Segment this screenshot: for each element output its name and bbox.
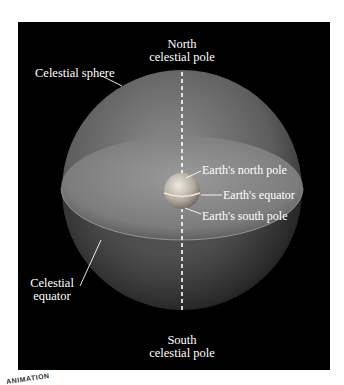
earth: [164, 173, 200, 209]
label-north-celestial-pole: North celestial pole: [147, 38, 217, 64]
label-south-celestial-pole: South celestial pole: [147, 334, 217, 360]
label-north-line2: celestial pole: [147, 51, 217, 64]
label-celestial-equator-line2: equator: [30, 290, 74, 303]
label-earth-north-pole: Earth's north pole: [202, 164, 287, 177]
label-celestial-equator: Celestial equator: [30, 277, 74, 303]
label-south-line2: celestial pole: [147, 347, 217, 360]
label-celestial-sphere: Celestial sphere: [35, 67, 115, 80]
label-earth-south-pole: Earth's south pole: [202, 210, 287, 223]
label-earth-equator: Earth's equator: [223, 189, 295, 202]
